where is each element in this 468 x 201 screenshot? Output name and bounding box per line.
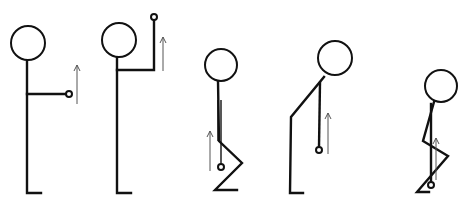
figure-squat-upright [205, 49, 242, 190]
head-circle [11, 26, 45, 60]
up-arrow-icon [160, 37, 166, 71]
head-circle [425, 70, 457, 102]
arm-line [319, 83, 320, 147]
body-line [417, 102, 448, 192]
body-line [27, 60, 41, 193]
body-line [215, 81, 242, 190]
hand-circle [428, 182, 434, 188]
diagram-canvas [0, 0, 468, 201]
up-arrow-icon [325, 113, 331, 154]
figure-arm-forward [11, 26, 80, 193]
hand-circle [218, 164, 224, 170]
up-arrow-icon [207, 131, 213, 171]
figure-bent-over [290, 41, 352, 193]
head-circle [205, 49, 237, 81]
hand-circle [316, 147, 322, 153]
head-circle [318, 41, 352, 75]
body-line [117, 57, 131, 193]
hand-circle [66, 91, 72, 97]
figure-arm-raised [102, 14, 166, 193]
figure-deep-squat [417, 70, 457, 192]
up-arrow-icon [74, 65, 80, 104]
posture-diagram [0, 0, 468, 201]
hand-circle [151, 14, 157, 20]
head-circle [102, 23, 136, 57]
